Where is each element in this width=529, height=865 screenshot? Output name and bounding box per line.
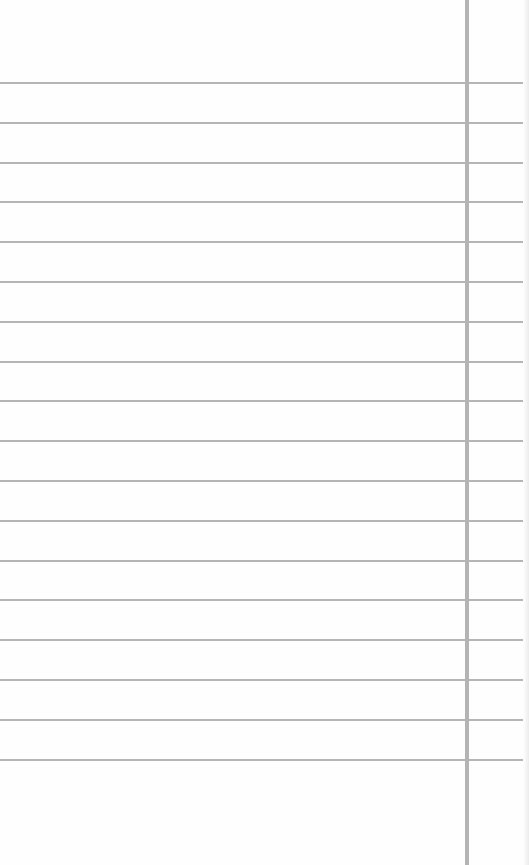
- ruled-line: [0, 679, 529, 681]
- ruled-line: [0, 122, 529, 124]
- ruled-line: [0, 361, 529, 363]
- ruled-line: [0, 520, 529, 522]
- ruled-line: [0, 281, 529, 283]
- ruled-line: [0, 440, 529, 442]
- paper-edge: [523, 0, 529, 865]
- ruled-line: [0, 639, 529, 641]
- ruled-line: [0, 201, 529, 203]
- ruled-line: [0, 480, 529, 482]
- ruled-line: [0, 82, 529, 84]
- ruled-line: [0, 241, 529, 243]
- ruled-line: [0, 560, 529, 562]
- ruled-line: [0, 719, 529, 721]
- ruled-line: [0, 321, 529, 323]
- ruled-line: [0, 162, 529, 164]
- margin-line: [465, 0, 469, 865]
- ruled-line: [0, 759, 529, 761]
- lined-paper: [0, 0, 529, 865]
- ruled-line: [0, 400, 529, 402]
- ruled-line: [0, 599, 529, 601]
